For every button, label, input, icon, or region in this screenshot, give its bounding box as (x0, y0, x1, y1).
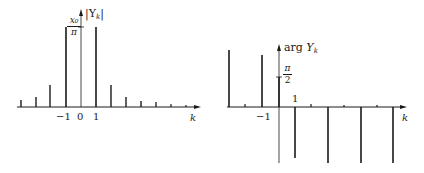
figure-canvas (0, 0, 424, 173)
pi-half-numerator: π (285, 64, 291, 73)
left-x-axis-label: k (190, 113, 196, 123)
right-tick-label-1: 1 (292, 94, 298, 104)
right-tick-label-minus1: −1 (256, 112, 271, 122)
right-x-axis-arrow-icon (400, 105, 407, 109)
left-magnitude-plot (17, 9, 201, 109)
peak-label-denominator: π (71, 28, 77, 37)
right-y-label-main: Y (306, 41, 313, 54)
right-y-label-prefix: arg (284, 41, 306, 54)
left-y-axis-arrow-icon (79, 9, 83, 16)
left-y-axis-label: |Yk| (85, 8, 104, 21)
left-tick-label-minus1: −1 (56, 112, 71, 122)
peak-label-numerator: x₀ (70, 16, 79, 25)
right-y-axis-arrow-icon (277, 44, 281, 51)
right-x-axis-label: k (402, 113, 408, 123)
left-tick-label-1: 1 (93, 112, 99, 122)
pi-half-denominator: 2 (285, 76, 291, 85)
left-y-label-main: |Y (85, 7, 96, 20)
peak-level-label: x₀ π (67, 16, 81, 37)
left-y-label-close: | (100, 7, 104, 20)
right-phase-plot (227, 44, 407, 163)
left-x-axis-arrow-icon (194, 105, 201, 109)
left-tick-label-0: 0 (77, 112, 83, 122)
right-y-axis-label: arg Yk (284, 42, 318, 55)
pi-half-label: π 2 (283, 64, 292, 85)
right-y-label-sub: k (314, 47, 318, 55)
